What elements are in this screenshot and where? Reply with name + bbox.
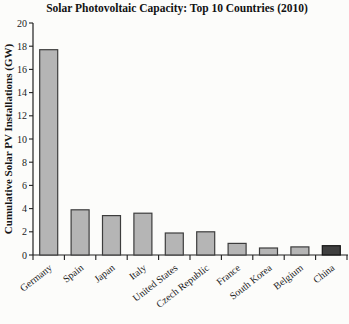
x-label-spain: Spain	[61, 262, 86, 285]
y-tick-label: 2	[22, 226, 27, 237]
plot-area: 02468101214161820GermanySpainJapanItalyU…	[17, 18, 348, 310]
y-tick-label: 0	[22, 250, 27, 261]
y-tick-label: 8	[22, 157, 27, 168]
y-tick-label: 16	[17, 64, 27, 75]
bar-china	[322, 246, 340, 255]
x-label-japan: Japan	[92, 262, 117, 285]
bar-united-states	[165, 233, 183, 255]
bar-belgium	[291, 247, 309, 255]
chart-svg: Solar Photovoltaic Capacity: Top 10 Coun…	[0, 0, 349, 324]
bar-japan	[103, 216, 121, 255]
x-label-belgium: Belgium	[271, 262, 305, 292]
chart-title: Solar Photovoltaic Capacity: Top 10 Coun…	[46, 2, 308, 15]
x-label-china: China	[311, 262, 337, 286]
y-tick-label: 18	[17, 41, 27, 52]
y-tick-label: 4	[22, 203, 27, 214]
y-tick-label: 14	[17, 87, 27, 98]
y-tick-label: 20	[17, 18, 27, 29]
bar-france	[228, 243, 246, 255]
y-tick-label: 10	[17, 134, 27, 145]
y-tick-label: 12	[17, 110, 27, 121]
bar-czech-republic	[197, 232, 215, 255]
bar-spain	[71, 210, 89, 255]
bar-germany	[40, 50, 58, 255]
y-axis-label: Cumulative Solar PV Installations (GW)	[2, 44, 15, 235]
bar-italy	[134, 213, 152, 255]
y-tick-label: 6	[22, 180, 27, 191]
solar-pv-bar-chart-figure: Solar Photovoltaic Capacity: Top 10 Coun…	[0, 0, 349, 324]
bar-south-korea	[260, 248, 278, 255]
x-label-italy: Italy	[127, 262, 148, 282]
x-label-germany: Germany	[18, 262, 54, 294]
